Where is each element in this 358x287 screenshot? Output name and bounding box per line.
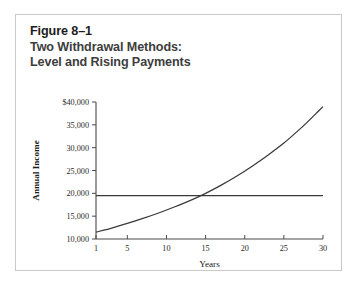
x-axis-tick-labels: 151015202530	[94, 244, 327, 253]
x-axis-tick-label: 30	[319, 244, 327, 253]
chart-plot-area: 10,00015,00020,00025,00030,00035,000$40,…	[16, 15, 343, 272]
x-axis-tick-label: 1	[94, 244, 98, 253]
x-axis-tick-marks	[96, 235, 323, 239]
line-chart-svg: 10,00015,00020,00025,00030,00035,000$40,…	[16, 15, 343, 272]
x-axis-tick-label: 5	[125, 244, 129, 253]
y-axis-tick-labels: 10,00015,00020,00025,00030,00035,000$40,…	[62, 98, 89, 244]
x-axis-tick-label: 15	[201, 244, 209, 253]
y-axis-tick-label: $40,000	[62, 98, 89, 107]
x-axis-tick-label: 25	[280, 244, 288, 253]
x-axis-tick-label: 10	[162, 244, 170, 253]
y-axis-tick-label: 10,000	[66, 235, 89, 244]
y-axis-title: Annual Income	[31, 140, 41, 201]
figure-frame: Figure 8–1 Two Withdrawal Methods: Level…	[15, 14, 342, 271]
y-axis-tick-label: 15,000	[66, 212, 89, 221]
y-axis-tick-label: 35,000	[66, 121, 89, 130]
y-axis-tick-label: 25,000	[66, 167, 89, 176]
series-rising-payments	[96, 107, 323, 233]
x-axis-tick-label: 20	[241, 244, 249, 253]
y-axis-tick-marks	[92, 102, 96, 239]
y-axis-tick-label: 20,000	[66, 189, 89, 198]
y-axis-tick-label: 30,000	[66, 144, 89, 153]
x-axis-title: Years	[199, 259, 220, 269]
